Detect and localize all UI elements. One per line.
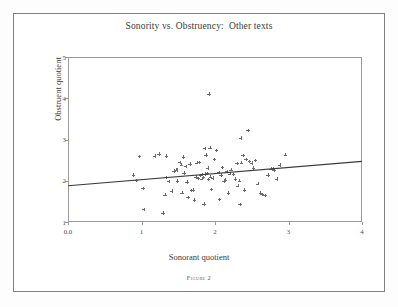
figure-container: Sonority vs. Obstruency: Other texts Obs… <box>0 0 398 307</box>
x-tick-mark <box>215 222 216 225</box>
figure-caption: Figure 2 <box>0 274 398 281</box>
y-tick-label: 1 <box>50 219 66 226</box>
x-tick-label: 0.0 <box>56 228 80 235</box>
x-tick-mark <box>289 222 290 225</box>
x-tick-mark <box>362 222 363 225</box>
y-tick-label: 2 <box>50 177 66 184</box>
x-tick-mark <box>142 222 143 225</box>
x-tick-mark <box>68 222 69 225</box>
y-tick-label: 3 <box>50 136 66 143</box>
x-tick-label: 3 <box>277 228 301 235</box>
trendline-segment <box>68 161 362 185</box>
x-tick-label: 1 <box>130 228 154 235</box>
x-tick-label: 2 <box>203 228 227 235</box>
x-axis-tick-labels: 0.01234 <box>0 228 398 240</box>
y-tick-label: 4 <box>50 95 66 102</box>
trendline <box>68 57 362 222</box>
x-axis-label: Sonorant quotient <box>0 252 398 262</box>
y-tick-label: 5 <box>50 54 66 61</box>
x-tick-label: 4 <box>350 228 374 235</box>
